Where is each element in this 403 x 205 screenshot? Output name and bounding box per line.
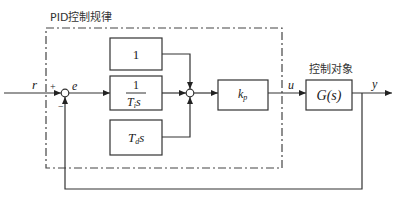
gain-block: kp (218, 80, 268, 110)
derivative-block: Tds (110, 120, 162, 155)
error-summing-junction (61, 89, 69, 97)
plus-sign: + (50, 81, 56, 92)
pid-region-label: PID控制规律 (50, 10, 112, 24)
minus-sign: − (58, 101, 64, 112)
error-label: e (72, 79, 78, 93)
derivative-to-sum-line (162, 97, 190, 137)
pid-block-diagram: PID控制规律 r + e − 1 1 Tis Tds kp u 控制对 (0, 0, 403, 205)
proportional-block: 1 (110, 38, 162, 70)
plant-label: G(s) (317, 88, 342, 104)
integral-block: 1 Tis (110, 76, 162, 110)
control-label: u (288, 78, 294, 92)
proportional-to-sum-line (162, 54, 190, 89)
output-label: y (371, 77, 378, 91)
pid-summing-junction (186, 89, 194, 97)
plant-region-label: 控制对象 (309, 62, 353, 76)
reference-label: r (32, 77, 38, 92)
proportional-label: 1 (133, 47, 140, 62)
integral-numerator: 1 (133, 78, 139, 92)
plant-block: 控制对象 G(s) (306, 62, 353, 110)
